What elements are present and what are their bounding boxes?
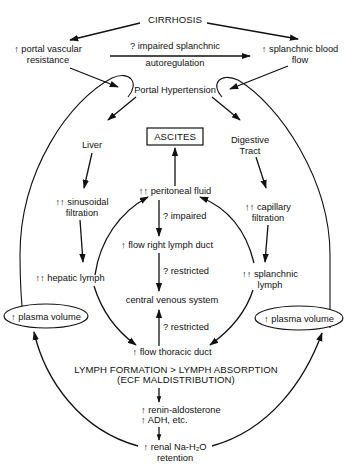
impaired-label: ? impaired (163, 211, 206, 221)
liver-label: Liver (82, 140, 102, 150)
arrow-renal-to-plasma-left (34, 332, 138, 446)
ascites-label: ASCITES (154, 131, 196, 142)
restricted-upper-label: ? restricted (163, 266, 209, 276)
digestive-tract-label: DigestiveTract (231, 135, 269, 156)
flow-right-lymph-duct-label: ↑ flow right lymph duct (121, 240, 213, 250)
capillary-filtration-label: ↑↑ capillaryfiltration (245, 202, 291, 223)
arrow-cirrhosis-to-resistance (70, 23, 140, 40)
hepatic-lymph-label: ↑↑ hepatic lymph (35, 273, 104, 283)
arrow-liver-to-sinusoidal (84, 153, 92, 188)
arrow-hepatic-lymph-to-peritoneal (95, 197, 148, 275)
flow-thoracic-duct-label: ↑ flow thoracic duct (132, 347, 211, 357)
arrow-digestive-to-capillary (256, 157, 266, 188)
splanchnic-lymph-label: ↑↑ splanchniclymph (242, 269, 298, 290)
arrow-capillary-to-splanchnic-lymph (265, 225, 268, 262)
autoregulation-label: ? impaired splanchnic (130, 41, 220, 51)
arrow-splanchnic-flow-to-portal-htn (230, 66, 288, 89)
ascites-pathophysiology-diagram: CIRRHOSIS ↑ portal vascularresistance ↑ … (0, 0, 350, 470)
central-venous-system-label: central venous system (126, 295, 219, 305)
arrow-sinusoidal-to-hepatic-lymph (80, 220, 83, 262)
arrow-portal-htn-to-digestive (212, 97, 240, 120)
renal-retention-label: ↑ renal Na-H₂Oretention (143, 442, 206, 463)
arrow-renal-to-plasma-right (212, 333, 322, 446)
plasma-volume-right-label: ↑ plasma volume (264, 314, 334, 324)
arrow-portal-htn-to-liver (108, 97, 136, 120)
portal-resistance-label: ↑ portal vascularresistance (14, 44, 82, 65)
peritoneal-fluid-label: ↑↑ peritoneal fluid (139, 186, 211, 196)
portal-hypertension-label: Portal Hypertension (134, 85, 216, 95)
splanchnic-flow-label: ↑ splanchnic bloodflow (262, 44, 339, 65)
plasma-volume-left-label: ↑ plasma volume (11, 312, 81, 322)
restricted-lower-label: ? restricted (163, 322, 209, 332)
cirrhosis-label: CIRRHOSIS (148, 14, 202, 25)
arrow-resistance-to-portal-htn (70, 68, 118, 87)
sinusoidal-filtration-label: ↑↑ sinusoidalfiltration (55, 197, 108, 218)
arrow-cirrhosis-to-splanchnic-flow (207, 23, 298, 39)
ecf-maldistribution-label: (ECF MALDISTRIBUTION) (117, 374, 235, 385)
autoregulation-label-2: autoregulation (146, 58, 205, 68)
renin-aldosterone-label: ↑ renin-aldosterone↑ ADH, etc. (141, 405, 221, 425)
